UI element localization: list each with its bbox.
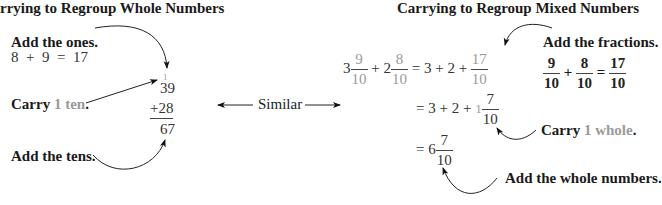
arrow-tens-icon bbox=[93, 140, 165, 169]
arrow-ones-icon bbox=[95, 26, 167, 68]
arrow-fractions-icon bbox=[505, 24, 552, 45]
arrow-carry-ten-icon bbox=[86, 80, 157, 103]
arrow-carry-whole-icon bbox=[497, 128, 536, 139]
arrow-whole-numbers-icon bbox=[443, 168, 497, 193]
